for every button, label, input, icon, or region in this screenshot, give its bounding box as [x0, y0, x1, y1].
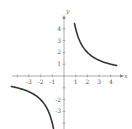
x-tick-label: 2	[85, 78, 89, 85]
curve-branch-negative	[11, 86, 53, 128]
x-tick-label: 4	[109, 78, 113, 85]
y-tick-label: -2	[55, 96, 61, 103]
y-tick-label: -3	[55, 107, 61, 114]
hyperbola-chart: -3-2-112341234-2-3 x y	[0, 0, 132, 129]
x-axis-label: x	[124, 72, 128, 79]
y-axis-arrow-icon	[62, 15, 66, 19]
axes	[12, 15, 124, 129]
y-tick-label: 4	[57, 25, 61, 32]
y-axis-label: y	[65, 7, 70, 15]
x-tick-label: 1	[74, 78, 78, 85]
x-tick-label: 3	[97, 78, 101, 85]
y-tick-label: 1	[57, 60, 61, 67]
curve-branch-positive	[75, 24, 117, 66]
tick-labels: -3-2-112341234-2-3	[26, 25, 113, 115]
y-tick-label: 2	[57, 48, 61, 55]
x-tick-label: -1	[49, 78, 55, 85]
x-tick-label: -2	[38, 78, 44, 85]
x-tick-label: -3	[26, 78, 32, 85]
y-tick-label: 3	[57, 37, 61, 44]
